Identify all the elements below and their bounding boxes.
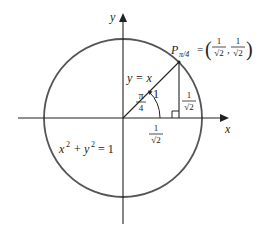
- point-p-x-denominator: √2: [214, 48, 223, 58]
- ray-equation-label: y = x: [126, 71, 152, 85]
- circle-equation-rhs: = 1: [98, 142, 114, 156]
- point-p-subscript: π/4: [179, 50, 189, 59]
- circle-equation-plus: +: [74, 142, 81, 156]
- horizontal-leg-denominator: √2: [151, 135, 160, 145]
- point-p-name: P: [170, 43, 179, 57]
- point-p-open-paren: (: [205, 38, 212, 61]
- circle-equation-x: x: [58, 142, 65, 156]
- circle-equation-x-exponent: 2: [66, 140, 70, 149]
- point-p-x-numerator: 1: [217, 36, 222, 46]
- diagram-svg: y x y = x 1 π 4 1 √2 1 √2 P π/4 = ( 1 √2…: [0, 0, 269, 233]
- angle-numerator: π: [138, 90, 143, 101]
- vertical-leg-denominator: √2: [184, 102, 193, 112]
- y-axis-label: y: [109, 10, 116, 24]
- x-axis-arrow-icon: [220, 114, 229, 122]
- point-p-comma: ,: [227, 43, 230, 55]
- right-angle-marker: [172, 111, 179, 118]
- point-p-dot: [178, 61, 181, 64]
- point-p-y-numerator: 1: [236, 36, 241, 46]
- circle-equation-y-exponent: 2: [91, 140, 95, 149]
- point-p-equals: =: [197, 43, 203, 55]
- circle-equation-y: y: [83, 142, 90, 156]
- vertical-leg-numerator: 1: [187, 90, 192, 100]
- unit-circle-diagram: y x y = x 1 π 4 1 √2 1 √2 P π/4 = ( 1 √2…: [0, 0, 269, 233]
- angle-denominator: 4: [139, 103, 144, 113]
- y-axis-arrow-icon: [119, 13, 127, 22]
- ray-length-label: 1: [153, 87, 159, 101]
- point-p-close-paren: ): [246, 38, 253, 61]
- horizontal-leg-numerator: 1: [154, 123, 159, 133]
- x-axis-label: x: [224, 122, 231, 136]
- point-p-y-denominator: √2: [233, 48, 242, 58]
